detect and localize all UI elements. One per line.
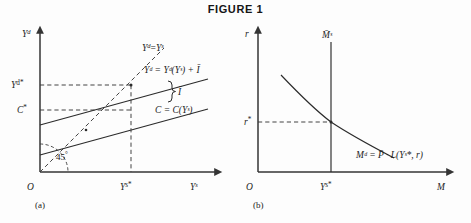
- panel-a-x-axis-label: Ys: [190, 181, 198, 192]
- angle-label-45: 45°: [56, 151, 68, 162]
- figure-title: FIGURE 1: [0, 3, 471, 15]
- label-identity-line: Yd=Ys: [142, 42, 164, 53]
- point-consumption-cross: [85, 129, 88, 132]
- panel-b-y-axis-label: r: [245, 29, 249, 39]
- tick-r-star: r*: [244, 116, 252, 127]
- label-consumption: C = C(Yˢ): [155, 105, 192, 116]
- brace-autonomous-investment: [168, 81, 176, 102]
- figure-canvas: Yd Ys O Yd* C* Ys* 45°: [0, 0, 471, 223]
- curve-money-demand: [281, 75, 394, 158]
- label-aggregate-demand: Yᵈ = Yᵈ(Yˢ) + Ī: [144, 64, 200, 76]
- figure-root: FIGURE 1: [0, 0, 471, 223]
- tick-ys-star-b: Ys*: [320, 181, 332, 192]
- panel-b-caption: (b): [253, 200, 264, 210]
- panel-b-x-axis-label: M: [436, 182, 446, 192]
- panel-a-caption: (a): [35, 200, 45, 210]
- panel-a-origin-label: O: [27, 182, 34, 192]
- label-money-demand: Mᵈ = P̄ · L(Yˢ*, r): [355, 150, 423, 161]
- point-goods-equilibrium: [130, 84, 133, 87]
- panel-b-origin-label: O: [246, 182, 253, 192]
- curve-consumption: [40, 109, 208, 155]
- tick-yd-star: Yd*: [11, 79, 24, 90]
- label-money-supply: M̄ˢ: [321, 30, 333, 40]
- panel-b: r M O r* Ys* M̄ˢ Mᵈ = P̄ · L(Yˢ*, r) (b): [244, 29, 448, 210]
- point-money-equilibrium: [330, 121, 333, 124]
- label-autonomous-investment: Ī: [177, 86, 182, 97]
- tick-c-star: C*: [17, 104, 27, 115]
- panel-a: Yd Ys O Yd* C* Ys* 45°: [11, 28, 216, 210]
- panel-a-y-axis-label: Yd: [22, 28, 31, 39]
- curve-aggregate-demand: [40, 79, 208, 125]
- tick-ys-star-a: Ys*: [120, 181, 132, 192]
